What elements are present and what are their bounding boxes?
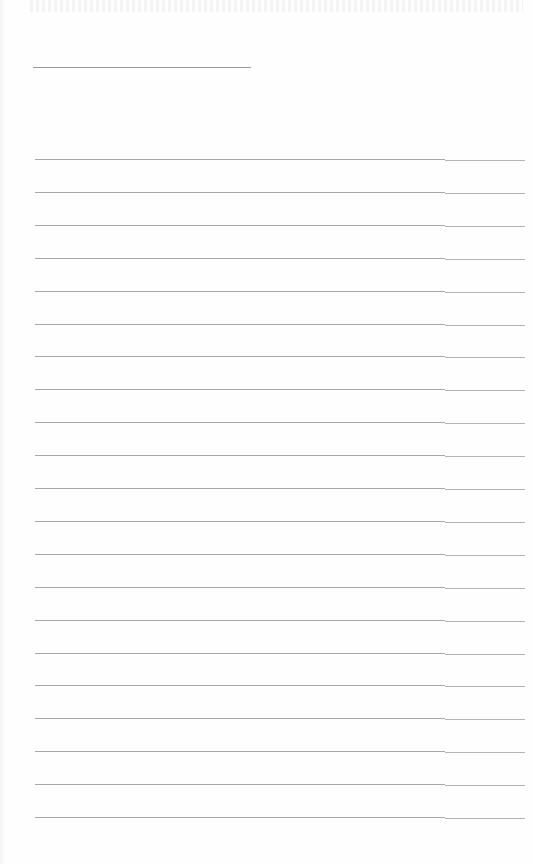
ruled-line-tail: [445, 357, 525, 358]
ruled-line-main: [35, 620, 445, 621]
ruled-line-tail: [445, 390, 525, 391]
ruled-line-main: [35, 751, 445, 752]
ruled-line-main: [35, 685, 445, 686]
ruled-line-main: [35, 324, 445, 325]
ruled-line-tail: [445, 818, 525, 819]
ruled-line-main: [35, 159, 445, 160]
lined-paper-page: [0, 0, 533, 864]
ruled-line-tail: [445, 785, 525, 786]
ruled-line-tail: [445, 522, 525, 523]
ruled-line-main: [35, 225, 445, 226]
ruled-line-tail: [445, 686, 525, 687]
ruled-line-tail: [445, 654, 525, 655]
ruled-line-main: [35, 356, 445, 357]
ruled-line-tail: [445, 423, 525, 424]
ruled-line-main: [35, 587, 445, 588]
ruled-line-main: [35, 488, 445, 489]
ruled-line-main: [35, 258, 445, 259]
ruled-line-tail: [445, 555, 525, 556]
ruled-line-main: [35, 817, 445, 818]
page-edge-shadow: [0, 0, 6, 864]
ruled-line-tail: [445, 226, 525, 227]
scan-bleed-through: [30, 0, 523, 12]
ruled-line-tail: [445, 489, 525, 490]
ruled-line-main: [35, 718, 445, 719]
ruled-line-tail: [445, 325, 525, 326]
ruled-line-tail: [445, 292, 525, 293]
ruled-line-main: [35, 291, 445, 292]
ruled-line-main: [35, 653, 445, 654]
ruled-line-tail: [445, 752, 525, 753]
ruled-line-tail: [445, 621, 525, 622]
ruled-line-tail: [445, 456, 525, 457]
ruled-line-tail: [445, 160, 525, 161]
ruled-line-tail: [445, 719, 525, 720]
ruled-line-main: [35, 192, 445, 193]
ruled-line-main: [35, 554, 445, 555]
title-line: [33, 67, 251, 68]
ruled-line-main: [35, 784, 445, 785]
ruled-line-tail: [445, 259, 525, 260]
ruled-line-main: [35, 422, 445, 423]
ruled-line-main: [35, 455, 445, 456]
ruled-line-main: [35, 521, 445, 522]
ruled-line-tail: [445, 193, 525, 194]
ruled-line-main: [35, 389, 445, 390]
ruled-line-tail: [445, 588, 525, 589]
